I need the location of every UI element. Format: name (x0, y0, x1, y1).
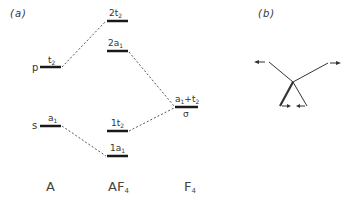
corr-p-2t2 (62, 21, 106, 67)
mo-1a1-label: 1a1 (110, 144, 125, 155)
column-label-atom: A (46, 180, 55, 193)
vibration-mode-sketch (254, 60, 341, 108)
ligand-a1-plus-t2-label: a1+t2 (175, 95, 199, 106)
sigma-label: σ (183, 110, 189, 119)
mo-2t2-label: 2t2 (109, 9, 122, 20)
orbital-s-label: s (32, 121, 37, 130)
column-label-molecule: AF4 (108, 180, 129, 198)
orbital-p-label: p (32, 63, 38, 72)
sym-a1-label: a1 (48, 114, 57, 125)
corr-2a1-sigma (129, 52, 174, 106)
column-label-ligand: F4 (184, 180, 196, 198)
corr-1t2-sigma (129, 108, 174, 131)
corr-s-1a1 (62, 126, 106, 156)
panel-a-label: (a) (10, 9, 27, 18)
mo-1t2-label: 1t2 (111, 119, 124, 130)
mo-diagram-graphics (0, 0, 347, 202)
sym-t2-label: t2 (48, 56, 55, 67)
mo-2a1-label: 2a1 (108, 39, 123, 50)
panel-b-label: (b) (258, 9, 275, 18)
